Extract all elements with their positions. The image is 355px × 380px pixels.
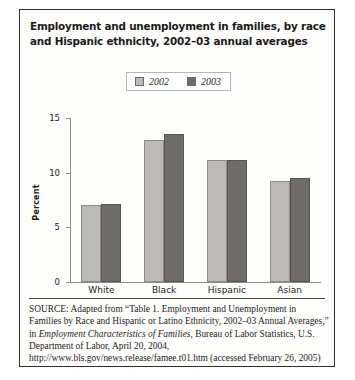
source-label: SOURCE: — [29, 304, 69, 314]
y-tick-mark — [66, 118, 70, 119]
y-tick-label: 15 — [38, 113, 60, 123]
y-tick-label: 10 — [38, 168, 60, 178]
bar-hispanic-2002 — [207, 160, 227, 282]
source-publication: Employment Characteristics of Families — [39, 329, 191, 339]
x-tick-label-asian: Asian — [253, 285, 327, 295]
bar-white-2003 — [101, 204, 121, 282]
y-tick-mark — [66, 227, 70, 228]
y-tick-mark — [66, 173, 70, 174]
y-tick-label: 0 — [38, 277, 60, 287]
bar-hispanic-2003 — [227, 160, 247, 282]
bar-black-2002 — [144, 140, 164, 282]
bar-black-2003 — [164, 134, 184, 282]
y-tick-mark — [66, 282, 70, 283]
bar-asian-2002 — [270, 181, 290, 282]
bar-white-2002 — [81, 205, 101, 282]
y-axis-line — [70, 118, 71, 282]
source-note: SOURCE: Adapted from “Table 1. Employmen… — [29, 303, 329, 364]
y-tick-label: 5 — [38, 222, 60, 232]
source-divider — [29, 298, 325, 299]
bar-asian-2003 — [290, 178, 310, 282]
figure-panel: Employment and unemployment in families,… — [19, 9, 335, 367]
x-axis-line — [70, 282, 321, 283]
